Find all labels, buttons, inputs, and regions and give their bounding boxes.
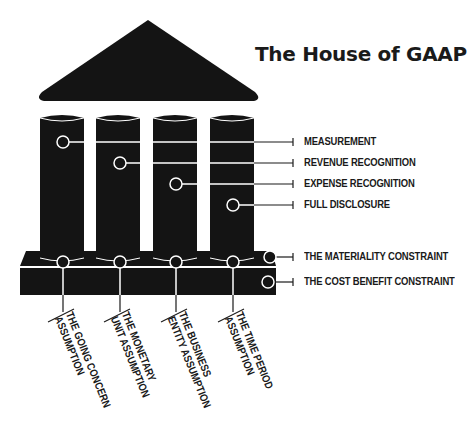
- node-expense: [170, 178, 182, 190]
- label-materiality-constraint: THE MATERIALITY CONSTRAINT: [304, 250, 448, 262]
- node-business-entity: [170, 256, 182, 268]
- pillar-2: [96, 115, 140, 261]
- label-expense-recognition: EXPENSE RECOGNITION: [304, 177, 415, 189]
- diagram-title: The House of GAAP: [255, 42, 467, 66]
- base-lower-tier: [20, 268, 276, 295]
- roof: [39, 20, 258, 101]
- node-measurement: [57, 136, 69, 148]
- node-monetary-unit: [114, 256, 126, 268]
- node-materiality: [264, 251, 276, 263]
- label-revenue-recognition: REVENUE RECOGNITION: [304, 156, 416, 168]
- pillars: [40, 115, 254, 261]
- node-cost-benefit: [262, 276, 274, 288]
- node-revenue: [114, 157, 126, 169]
- label-cost-benefit-constraint: THE COST BENEFIT CONSTRAINT: [304, 275, 455, 287]
- label-full-disclosure: FULL DISCLOSURE: [304, 198, 390, 210]
- node-time-period: [227, 256, 239, 268]
- pillar-4: [210, 115, 254, 261]
- label-measurement: MEASUREMENT: [304, 135, 376, 147]
- node-going-concern: [57, 256, 69, 268]
- node-disclosure: [227, 199, 239, 211]
